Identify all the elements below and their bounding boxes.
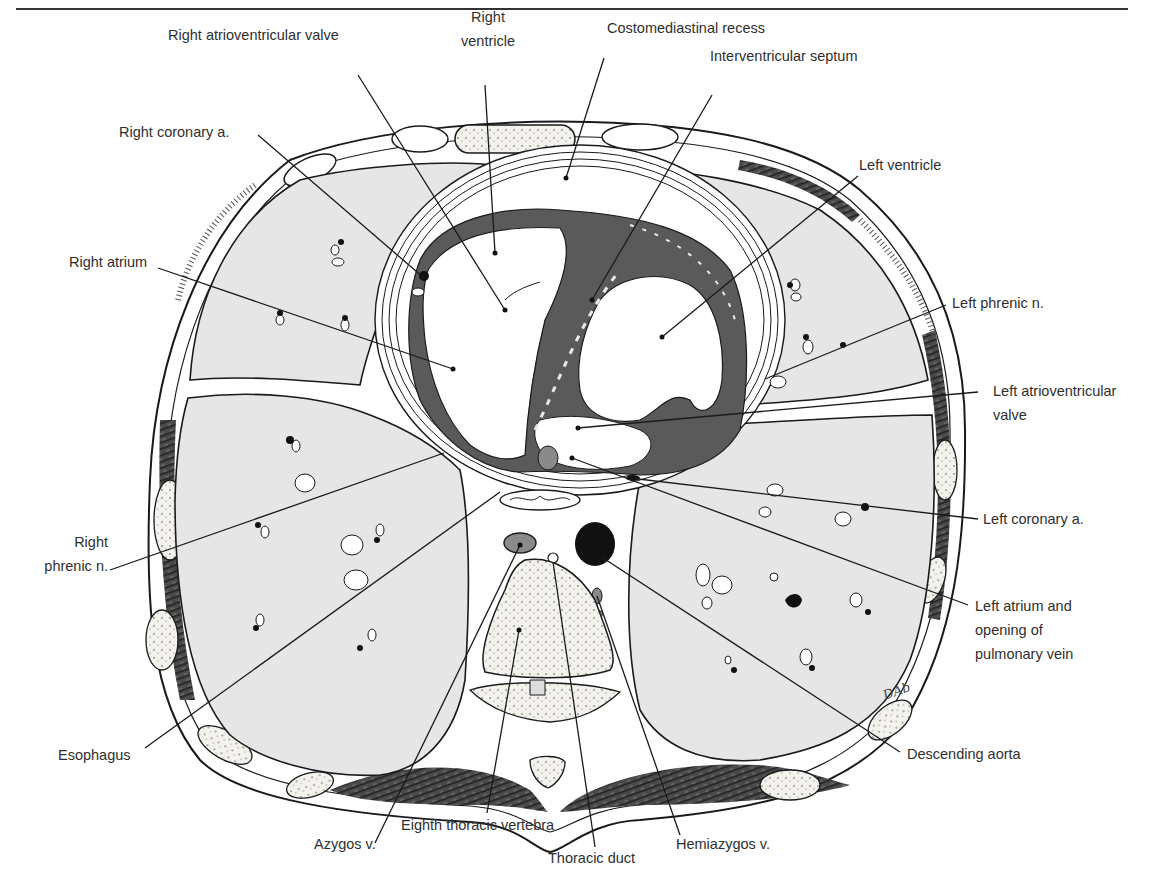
label-right-phrenic-n-line1: Right <box>20 530 108 554</box>
label-eighth-thoracic-vertebra: Eighth thoracic vertebra <box>401 813 554 837</box>
label-right-ventricle: Right ventricle <box>453 5 523 53</box>
label-costomediastinal-recess: Costomediastinal recess <box>607 16 765 40</box>
label-hemiazygos-v: Hemiazygos v. <box>676 832 770 856</box>
label-left-atrium-line1: Left atrium and <box>975 594 1073 618</box>
label-right-ventricle-line2: ventricle <box>453 29 523 53</box>
label-right-av-valve: Right atrioventricular valve <box>168 23 339 47</box>
label-left-atrium-line2: opening of <box>975 618 1073 642</box>
label-esophagus: Esophagus <box>58 743 131 767</box>
label-left-av-valve: Left atrioventricular valve <box>993 379 1116 427</box>
label-left-atrium-line3: pulmonary vein <box>975 642 1073 666</box>
label-interventricular-septum: Interventricular septum <box>710 44 857 68</box>
label-right-phrenic-n: Right phrenic n. <box>20 530 108 578</box>
label-right-ventricle-line1: Right <box>453 5 523 29</box>
label-thoracic-duct: Thoracic duct <box>548 846 635 870</box>
descending-aorta-shape <box>575 522 615 566</box>
right-lung-lower-lobe <box>175 394 468 775</box>
label-left-av-valve-line2: valve <box>993 403 1116 427</box>
label-left-atrium: Left atrium and opening of pulmonary vei… <box>975 594 1073 666</box>
label-left-ventricle: Left ventricle <box>859 153 941 177</box>
label-right-coronary-a: Right coronary a. <box>119 120 229 144</box>
esophagus-shape <box>500 490 580 510</box>
label-left-av-valve-line1: Left atrioventricular <box>993 379 1116 403</box>
label-azygos-v: Azygos v. <box>314 832 376 856</box>
label-left-coronary-a: Left coronary a. <box>983 507 1084 531</box>
label-right-phrenic-n-line2: phrenic n. <box>20 554 108 578</box>
label-left-phrenic-n: Left phrenic n. <box>952 291 1044 315</box>
label-descending-aorta: Descending aorta <box>907 742 1021 766</box>
label-right-atrium: Right atrium <box>69 250 147 274</box>
